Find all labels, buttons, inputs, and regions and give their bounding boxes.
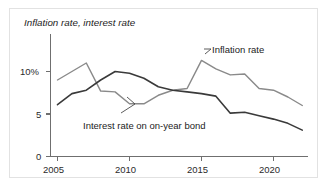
y-tick-marks	[46, 72, 51, 157]
chart-title: Inflation rate, interest rate	[24, 17, 136, 28]
x-tick-marks	[58, 157, 274, 162]
annotation-interest-rate: Interest rate on on-year bond	[83, 120, 206, 131]
annotation-inflation-rate: Inflation rate	[212, 44, 264, 55]
x-tick-label-2015: 2015	[187, 164, 208, 175]
series-line-inflation-rate	[58, 60, 303, 105]
inflation-leader-line	[204, 49, 211, 54]
x-tick-label-2020: 2020	[259, 164, 280, 175]
x-tick-label-2005: 2005	[43, 164, 64, 175]
line-chart: Inflation rate, interest rate 10% 5 0 20…	[0, 0, 327, 195]
axes-group	[51, 34, 309, 157]
y-tick-label-0: 0	[36, 151, 41, 162]
y-tick-label-5: 5	[36, 109, 41, 120]
y-tick-label-10: 10%	[20, 66, 40, 77]
x-tick-label-2010: 2010	[115, 164, 136, 175]
chart-figure: Inflation rate, interest rate 10% 5 0 20…	[0, 0, 327, 195]
